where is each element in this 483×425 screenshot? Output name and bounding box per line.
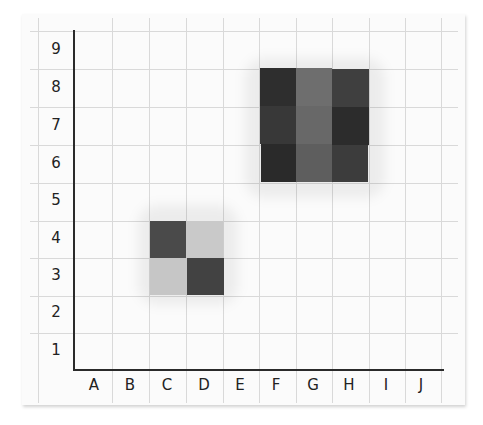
grid-line-horizontal <box>30 69 458 70</box>
grid-line-horizontal <box>30 183 458 184</box>
y-label-8: 8 <box>44 80 68 95</box>
block-f8[interactable] <box>260 68 296 106</box>
grid-line-horizontal <box>30 333 458 334</box>
grid-line-vertical <box>38 18 39 403</box>
block-f7[interactable] <box>260 106 296 144</box>
y-axis-line <box>73 30 75 371</box>
y-label-6: 6 <box>44 156 68 171</box>
grid-line-horizontal <box>30 31 458 32</box>
x-label-h: H <box>331 378 367 393</box>
grid-line-horizontal <box>30 296 458 297</box>
block-g6[interactable] <box>296 144 332 182</box>
y-label-7: 7 <box>44 118 68 133</box>
block-d3[interactable] <box>187 258 224 295</box>
grid-line-horizontal <box>30 107 458 108</box>
x-label-a: A <box>76 378 112 393</box>
grid-line-vertical <box>441 18 442 403</box>
y-label-5: 5 <box>44 193 68 208</box>
y-label-2: 2 <box>44 305 68 320</box>
y-label-1: 1 <box>44 343 68 358</box>
x-label-j: J <box>403 378 439 393</box>
grid-line-vertical <box>112 18 113 403</box>
block-c3[interactable] <box>150 258 187 295</box>
y-label-3: 3 <box>44 268 68 283</box>
block-f6[interactable] <box>261 144 296 182</box>
x-label-e: E <box>222 378 258 393</box>
grid-line-horizontal <box>30 221 458 222</box>
grid-line-horizontal <box>30 258 458 259</box>
x-label-g: G <box>295 378 331 393</box>
grid-line-vertical <box>405 18 406 403</box>
block-h6[interactable] <box>332 145 368 182</box>
block-h8[interactable] <box>332 69 369 107</box>
graph-paper <box>22 14 465 405</box>
x-label-b: B <box>112 378 148 393</box>
x-label-c: C <box>149 378 185 393</box>
block-g8[interactable] <box>296 68 332 106</box>
x-axis-line <box>73 369 444 371</box>
block-d4[interactable] <box>186 221 223 258</box>
grid-line-horizontal <box>30 145 458 146</box>
block-c4[interactable] <box>150 221 186 258</box>
x-label-f: F <box>258 378 294 393</box>
y-label-4: 4 <box>44 231 68 246</box>
x-label-i: I <box>368 378 404 393</box>
x-label-d: D <box>186 378 222 393</box>
block-h7[interactable] <box>332 107 369 145</box>
y-label-9: 9 <box>44 42 68 57</box>
block-g7[interactable] <box>296 106 332 144</box>
